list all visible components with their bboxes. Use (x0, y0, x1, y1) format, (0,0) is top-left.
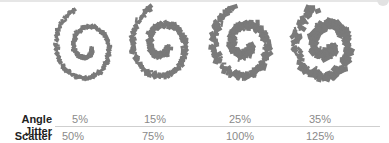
scatter-value: 100% (215, 130, 265, 142)
scatter-value: 125% (295, 130, 345, 142)
angle-jitter-value: 5% (55, 113, 105, 125)
scatter-value: 50% (48, 130, 98, 142)
angle-jitter-value: 25% (215, 113, 265, 125)
scatter-value: 75% (128, 130, 178, 142)
row-divider (55, 126, 380, 127)
spiral-2 (129, 3, 190, 79)
spiral-3 (208, 4, 273, 82)
scatter-label: Scatter (0, 130, 52, 142)
spiral-4 (289, 4, 355, 82)
spiral-examples (0, 0, 385, 105)
spiral-1 (53, 7, 112, 81)
angle-jitter-value: 15% (130, 113, 180, 125)
angle-jitter-value: 35% (295, 113, 345, 125)
